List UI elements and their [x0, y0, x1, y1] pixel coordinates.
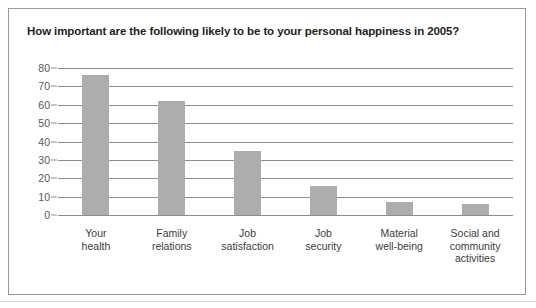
y-axis-tick-label: 30: [38, 154, 50, 166]
bar: [310, 186, 337, 215]
y-axis-tick-label: 60: [38, 99, 50, 111]
y-axis-tick-label: 0: [44, 209, 50, 221]
gridline: [58, 123, 513, 124]
bar: [82, 75, 109, 215]
y-axis-tick-label: 10: [38, 191, 50, 203]
gridline: [58, 86, 513, 87]
gridline: [58, 105, 513, 106]
y-axis-tick-mark: [51, 123, 57, 124]
y-axis-tick-mark: [51, 68, 57, 69]
gridline: [58, 68, 513, 69]
bar: [462, 204, 489, 215]
y-axis-tick-label: 80: [38, 62, 50, 74]
plot-area: 80706050403020100YourhealthFamilyrelatio…: [58, 68, 513, 215]
y-axis-tick-mark: [51, 178, 57, 179]
y-axis-tick-mark: [51, 215, 57, 216]
gridline: [58, 197, 513, 198]
gridline: [58, 178, 513, 179]
y-axis-tick-label: 70: [38, 80, 50, 92]
y-axis-tick-mark: [51, 141, 57, 142]
y-axis-tick-mark: [51, 86, 57, 87]
x-axis-category-label: Social andcommunityactivities: [429, 227, 521, 265]
page-divider: [0, 301, 536, 302]
bar: [158, 101, 185, 215]
chart-title: How important are the following likely t…: [27, 25, 507, 37]
bar: [386, 202, 413, 215]
gridline: [58, 215, 513, 216]
y-axis-tick-mark: [51, 104, 57, 105]
y-axis-tick-mark: [51, 159, 57, 160]
chart-frame: How important are the following likely t…: [8, 8, 526, 295]
y-axis-tick-label: 50: [38, 117, 50, 129]
gridline: [58, 142, 513, 143]
y-axis-tick-label: 40: [38, 136, 50, 148]
bar: [234, 151, 261, 215]
gridline: [58, 160, 513, 161]
y-axis-tick-mark: [51, 196, 57, 197]
y-axis-tick-label: 20: [38, 172, 50, 184]
